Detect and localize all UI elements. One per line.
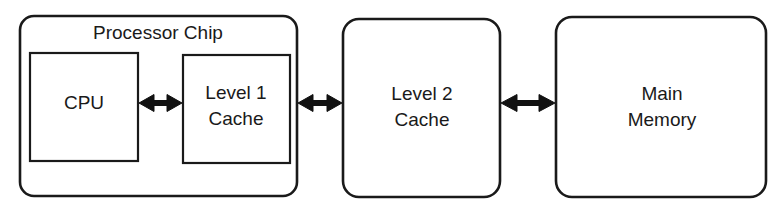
node-main-memory-label-line1: Main <box>641 83 682 104</box>
node-level-2-cache-label-line2: Cache <box>395 109 450 130</box>
node-level-2-cache[interactable] <box>343 19 500 197</box>
connector-l1-to-l2-cache-icon <box>298 95 342 112</box>
node-level-2-cache-label-line1: Level 2 <box>391 83 452 104</box>
node-main-memory[interactable] <box>556 17 766 197</box>
memory-hierarchy-diagram: Processor Chip CPU Level 1 Cache Level 2… <box>0 0 783 215</box>
node-level-1-cache-label-line2: Cache <box>209 108 264 129</box>
diagram-canvas: Processor Chip CPU Level 1 Cache Level 2… <box>0 0 783 215</box>
node-processor-chip-label: Processor Chip <box>93 22 223 43</box>
node-main-memory-label-line2: Memory <box>628 109 697 130</box>
node-cpu-label: CPU <box>64 92 104 113</box>
connector-l2-to-main-memory-icon <box>501 95 555 112</box>
node-level-1-cache-label-line1: Level 1 <box>205 82 266 103</box>
